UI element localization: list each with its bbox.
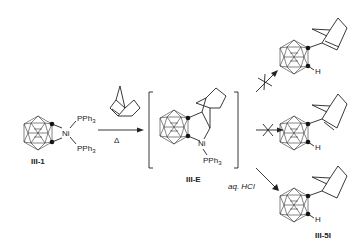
intermediate-iii-e: Ni PPh3 III-E — [160, 88, 226, 184]
carborane-cage — [280, 40, 310, 74]
arrow-bottom: aq. HCl — [228, 168, 279, 191]
heat-label: Δ — [114, 136, 120, 145]
pph3-label: PPh3 — [203, 156, 222, 166]
product-middle: H — [280, 94, 347, 152]
hydrogen-label: H — [315, 215, 321, 224]
arrow-top-crossed — [256, 70, 278, 92]
compound-label-iii-e: III-E — [186, 175, 201, 184]
aq-hcl-label: aq. HCl — [228, 182, 255, 191]
compound-label-iii-1: III-1 — [31, 157, 45, 166]
reactant-iii-1: Ni PPh3 PPh3 III-1 — [24, 114, 96, 166]
carborane-cage — [280, 188, 310, 222]
hydrogen-label: H — [315, 143, 321, 152]
reaction-arrow: Δ — [98, 128, 144, 146]
product-bottom-iii-5i: H III-5I — [280, 166, 347, 240]
pph3-top-label: PPh3 — [77, 114, 96, 124]
product-top: H — [280, 18, 347, 76]
pph3-bottom-label: PPh3 — [77, 144, 96, 154]
carborane-cage — [280, 116, 310, 150]
nickel-label: Ni — [62, 129, 70, 138]
carborane-cage — [24, 116, 54, 150]
reaction-scheme: Ni PPh3 PPh3 III-1 Δ — [0, 0, 360, 250]
hydrogen-label: H — [315, 67, 321, 76]
norbornene-reagent — [110, 86, 140, 116]
nickel-label: Ni — [198, 139, 206, 148]
compound-label-iii-5i: III-5I — [315, 231, 331, 240]
carborane-cage — [160, 110, 190, 144]
